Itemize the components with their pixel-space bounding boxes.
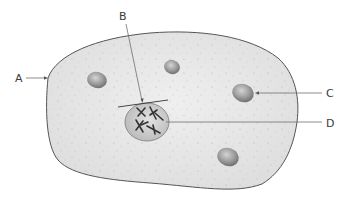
cell-diagram: A B C D — [0, 0, 350, 197]
label-b: B — [119, 10, 127, 23]
label-a-group: A — [15, 72, 48, 85]
cell — [47, 32, 298, 189]
cytoplasm-texture — [47, 32, 298, 189]
label-c: C — [326, 87, 334, 100]
label-d: D — [326, 117, 334, 130]
label-a: A — [15, 72, 23, 85]
nucleus — [125, 103, 169, 141]
